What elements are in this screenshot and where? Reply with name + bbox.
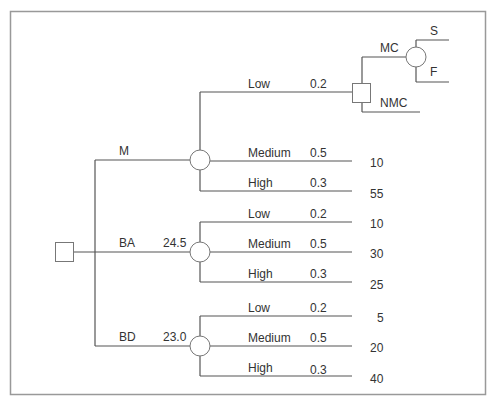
bd-chance-node	[190, 336, 210, 356]
m-medium-payoff: 10	[370, 156, 384, 170]
ba-low-prob: 0.2	[310, 207, 327, 221]
s-label: S	[430, 24, 438, 38]
m-medium-label: Medium	[248, 146, 291, 160]
m-medium-prob: 0.5	[310, 146, 327, 160]
bd-low-label: Low	[248, 301, 270, 315]
root-decision-node	[56, 243, 74, 262]
bd-low-prob: 0.2	[310, 301, 327, 315]
mc-label: MC	[380, 41, 399, 55]
m-high-payoff: 55	[370, 187, 384, 201]
bd-high-label: High	[248, 361, 273, 375]
ba-chance-node	[190, 242, 210, 262]
branch-bd-label: BD	[119, 330, 136, 344]
ba-medium-label: Medium	[248, 237, 291, 251]
nmc-label: NMC	[380, 96, 408, 110]
ba-low-label: Low	[248, 207, 270, 221]
m-low-prob: 0.2	[310, 77, 327, 91]
bd-high-prob: 0.3	[310, 363, 327, 377]
decision-tree-diagram: M Low 0.2 Medium 0.5 10 High 0.3 55 MC N…	[0, 0, 495, 406]
sub-decision-node	[353, 84, 371, 103]
ba-low-payoff: 10	[370, 217, 384, 231]
bd-medium-label: Medium	[248, 331, 291, 345]
bd-medium-prob: 0.5	[310, 331, 327, 345]
ba-medium-payoff: 30	[370, 247, 384, 261]
bd-high-payoff: 40	[370, 372, 384, 386]
mc-chance-node	[406, 47, 426, 67]
m-high-label: High	[248, 176, 273, 190]
m-chance-node	[190, 150, 210, 170]
branch-ba-label: BA	[119, 236, 135, 250]
m-high-prob: 0.3	[310, 176, 327, 190]
bd-medium-payoff: 20	[370, 341, 384, 355]
m-low-label: Low	[248, 77, 270, 91]
branch-bd-value: 23.0	[163, 330, 187, 344]
ba-medium-prob: 0.5	[310, 237, 327, 251]
ba-high-prob: 0.3	[310, 267, 327, 281]
branch-m-label: M	[119, 144, 129, 158]
bd-low-payoff: 5	[377, 311, 384, 325]
ba-high-label: High	[248, 267, 273, 281]
ba-high-payoff: 25	[370, 278, 384, 292]
f-label: F	[430, 65, 437, 79]
branch-ba-value: 24.5	[163, 236, 187, 250]
